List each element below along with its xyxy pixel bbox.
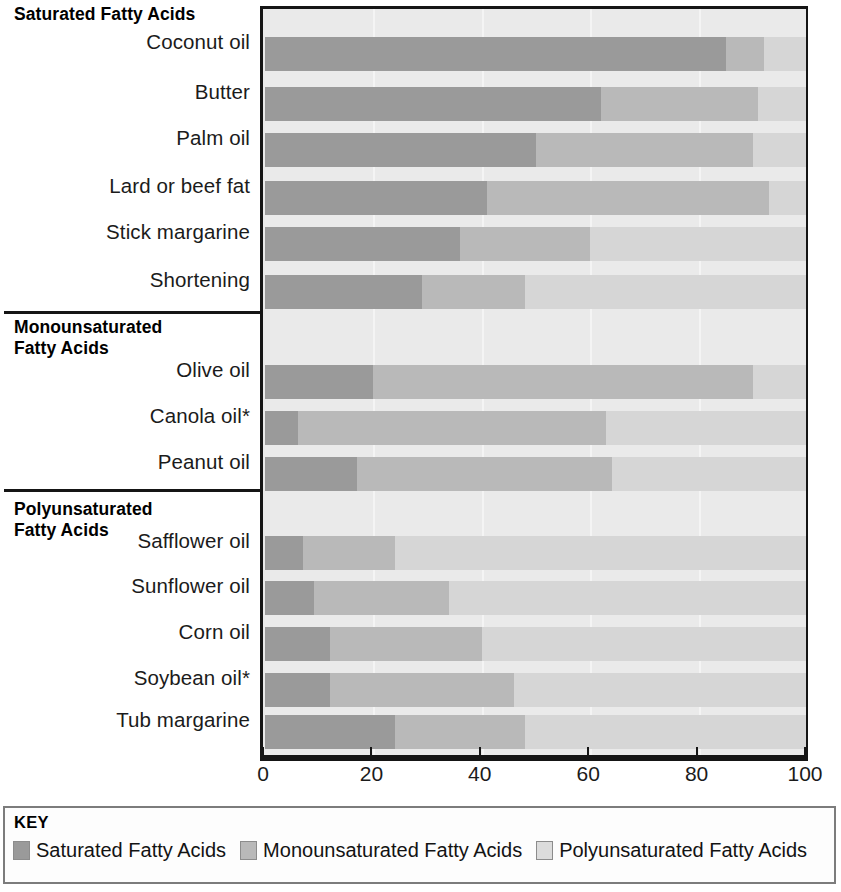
bar-segment-sat xyxy=(265,627,330,661)
category-label: Peanut oil xyxy=(158,450,250,474)
bar-segment-poly xyxy=(525,715,806,749)
category-label: Safflower oil xyxy=(137,529,250,553)
legend-swatch-sat xyxy=(13,841,30,860)
bar-segment-poly xyxy=(764,37,806,71)
bar-segment-sat xyxy=(265,457,357,491)
legend-item: Saturated Fatty Acids xyxy=(13,839,226,862)
bar-row xyxy=(263,457,806,491)
bar-segment-sat xyxy=(265,715,395,749)
bar-segment-mono xyxy=(314,581,450,615)
category-label: Palm oil xyxy=(176,126,250,150)
bar-segment-mono xyxy=(395,715,525,749)
bar-row xyxy=(263,715,806,749)
legend-swatch-poly xyxy=(536,841,553,860)
x-tick-80 xyxy=(696,747,698,758)
bar-segment-poly xyxy=(753,133,806,167)
x-tick-label: 60 xyxy=(577,762,600,786)
bar-row xyxy=(263,133,806,167)
bar-row xyxy=(263,227,806,261)
category-label-column: Saturated Fatty AcidsCoconut oilButterPa… xyxy=(0,0,262,760)
bar-segment-mono xyxy=(536,133,753,167)
bar-segment-sat xyxy=(265,365,373,399)
bar-segment-poly xyxy=(395,536,806,570)
bar-row xyxy=(263,181,806,215)
bar-row xyxy=(263,365,806,399)
bar-segment-mono xyxy=(373,365,752,399)
category-label: Shortening xyxy=(150,268,250,292)
plot-area xyxy=(260,6,808,758)
bar-segment-mono xyxy=(330,673,514,707)
bar-segment-sat xyxy=(265,181,487,215)
bar-segment-mono xyxy=(330,627,482,661)
bar-segment-poly xyxy=(525,275,806,309)
category-label: Canola oil* xyxy=(150,404,250,428)
category-label: Corn oil xyxy=(179,620,250,644)
bar-row xyxy=(263,411,806,445)
bar-segment-sat xyxy=(265,87,601,121)
bar-segment-poly xyxy=(758,87,806,121)
bar-segment-mono xyxy=(303,536,395,570)
bar-segment-sat xyxy=(265,37,726,71)
bar-segment-sat xyxy=(265,581,314,615)
category-label: Soybean oil* xyxy=(134,666,250,690)
x-tick-label: 80 xyxy=(685,762,708,786)
bar-segment-poly xyxy=(769,181,806,215)
bar-segment-mono xyxy=(298,411,607,445)
bar-segment-mono xyxy=(487,181,769,215)
group-divider-1 xyxy=(4,489,262,492)
bar-segment-mono xyxy=(726,37,764,71)
bar-segment-mono xyxy=(460,227,590,261)
bar-segment-poly xyxy=(482,627,806,661)
bar-segment-sat xyxy=(265,133,536,167)
bar-row xyxy=(263,673,806,707)
group-heading-2: Polyunsaturated Fatty Acids xyxy=(14,499,153,541)
category-label: Butter xyxy=(195,80,250,104)
bar-segment-sat xyxy=(265,411,298,445)
bar-segment-mono xyxy=(357,457,612,491)
bar-segment-poly xyxy=(753,365,806,399)
bar-segment-mono xyxy=(601,87,758,121)
category-label: Sunflower oil xyxy=(131,574,250,598)
category-label: Olive oil xyxy=(176,358,250,382)
group-divider-0 xyxy=(4,311,262,314)
bar-row xyxy=(263,37,806,71)
category-label: Coconut oil xyxy=(146,30,250,54)
bar-segment-mono xyxy=(422,275,525,309)
x-axis: 020406080100 xyxy=(260,758,808,792)
bar-segment-poly xyxy=(514,673,806,707)
legend-label: Saturated Fatty Acids xyxy=(36,839,226,862)
x-tick-20 xyxy=(370,747,372,758)
bar-row xyxy=(263,275,806,309)
bar-segment-poly xyxy=(606,411,806,445)
stacked-bar-chart-fats: Saturated Fatty AcidsCoconut oilButterPa… xyxy=(0,0,841,892)
x-tick-label: 100 xyxy=(787,762,822,786)
bar-segment-poly xyxy=(449,581,806,615)
legend-swatch-mono xyxy=(240,841,257,860)
x-tick-0 xyxy=(262,747,264,758)
category-label: Lard or beef fat xyxy=(109,174,250,198)
bar-segment-sat xyxy=(265,227,460,261)
bar-row xyxy=(263,627,806,661)
legend-item: Monounsaturated Fatty Acids xyxy=(240,839,522,862)
category-label: Stick margarine xyxy=(106,220,250,244)
bar-segment-sat xyxy=(265,275,422,309)
bar-segment-poly xyxy=(612,457,806,491)
bar-row xyxy=(263,87,806,121)
bar-segment-sat xyxy=(265,673,330,707)
x-tick-40 xyxy=(479,747,481,758)
category-label: Tub margarine xyxy=(116,708,250,732)
legend-items: Saturated Fatty AcidsMonounsaturated Fat… xyxy=(13,839,830,862)
x-tick-label: 20 xyxy=(360,762,383,786)
bar-row xyxy=(263,581,806,615)
legend-key-box: KEY Saturated Fatty AcidsMonounsaturated… xyxy=(3,806,836,884)
bar-row xyxy=(263,536,806,570)
legend-label: Monounsaturated Fatty Acids xyxy=(263,839,522,862)
x-tick-100 xyxy=(804,747,806,758)
legend-label: Polyunsaturated Fatty Acids xyxy=(559,839,807,862)
x-axis-line xyxy=(260,758,808,761)
plot-inner xyxy=(263,9,806,755)
legend-title: KEY xyxy=(14,813,49,832)
x-tick-label: 40 xyxy=(468,762,491,786)
legend-item: Polyunsaturated Fatty Acids xyxy=(536,839,807,862)
group-heading-0: Saturated Fatty Acids xyxy=(14,4,195,25)
